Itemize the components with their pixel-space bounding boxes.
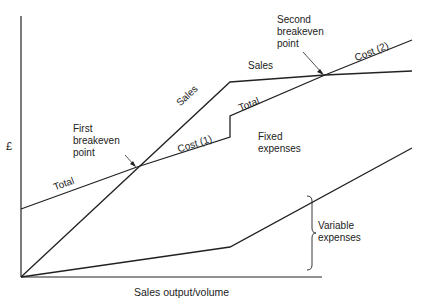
y-axis-label: £ — [6, 140, 12, 152]
variable-expenses-label: Variable expenses — [318, 220, 361, 244]
first-breakeven-arrow — [125, 155, 136, 167]
diagram-graphics — [0, 0, 426, 304]
x-axis-label: Sales output/volume — [134, 286, 229, 298]
variable-expenses-brace — [307, 196, 316, 270]
second-breakeven-arrow — [303, 52, 324, 75]
first-breakeven-label: First breakeven point — [73, 123, 120, 159]
second-breakeven-label: Second breakeven point — [277, 14, 324, 50]
fixed-expenses-label: Fixed expenses — [258, 131, 301, 155]
sales-line — [21, 71, 412, 277]
variable-cost-line — [21, 148, 412, 277]
sales-label-upper: Sales — [248, 60, 273, 72]
breakeven-diagram: £ Sales output/volume Sales Sales Total … — [0, 0, 426, 304]
